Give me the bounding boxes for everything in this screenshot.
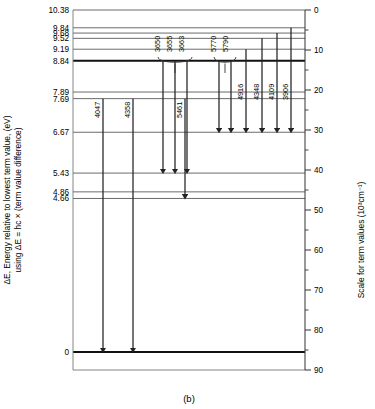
right-axis-tick-label: 10	[314, 46, 324, 55]
left-axis-title-line2: using ΔE = hc × (term value difference)	[13, 127, 23, 272]
right-axis-tick-label: 0	[314, 6, 319, 15]
transition-wavelength-label: 5770	[209, 36, 218, 52]
transition-wavelength-label: 5790	[221, 36, 230, 52]
energy-level-label: 4.66	[53, 194, 69, 203]
transition-wavelength-label: 4047	[93, 102, 102, 118]
right-axis-tick-label: 90	[314, 366, 324, 375]
transition-wavelength-label: 5461	[175, 102, 184, 118]
transition-wavelength-label: 3650	[153, 36, 162, 52]
energy-level-label: 10.38	[49, 6, 70, 15]
energy-level-label: 5.43	[53, 169, 69, 178]
right-axis-tick-label: 40	[314, 166, 324, 175]
transition-wavelength-label: 4916	[236, 84, 245, 100]
energy-level-label: 9.19	[53, 45, 69, 54]
energy-level-label: 7.69	[53, 95, 69, 104]
left-axis-title: ΔE, Energy relative to lowest term value…	[2, 115, 23, 284]
right-axis-tick-label: 20	[314, 86, 324, 95]
energy-level-label: 8.84	[53, 57, 69, 66]
transition-wavelength-label: 4358	[123, 102, 132, 118]
transition-wavelength-label: 4109	[267, 84, 276, 100]
right-axis-tick-label: 30	[314, 126, 324, 135]
transition-wavelength-label: 3906	[281, 84, 290, 100]
right-axis-title: Scale for term values (10³cm⁻¹)	[356, 181, 366, 298]
right-axis-tick-label: 50	[314, 206, 324, 215]
left-axis-title-line1: ΔE, Energy relative to lowest term value…	[2, 115, 12, 284]
energy-level-label: 0	[64, 348, 69, 357]
right-axis-tick-label: 80	[314, 326, 324, 335]
right-axis-title-text: Scale for term values (10³cm⁻¹)	[356, 181, 366, 298]
energy-level-diagram: 10.389.849.689.529.198.847.897.696.675.4…	[0, 0, 375, 409]
right-axis-tick-label: 60	[314, 246, 324, 255]
energy-level-label: 6.67	[53, 128, 69, 137]
transition-wavelength-label: 3655	[165, 36, 174, 52]
transition-wavelength-label: 4348	[252, 84, 261, 100]
figure-caption: (b)	[183, 393, 195, 404]
right-axis-tick-label: 70	[314, 286, 324, 295]
energy-level-label: 9.52	[53, 34, 69, 43]
transition-wavelength-label: 3663	[177, 36, 186, 52]
figure-container: 10.389.849.689.529.198.847.897.696.675.4…	[0, 0, 375, 409]
